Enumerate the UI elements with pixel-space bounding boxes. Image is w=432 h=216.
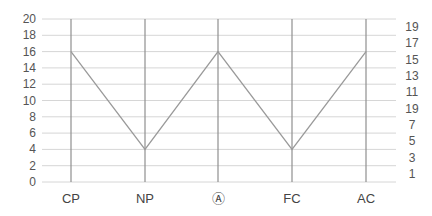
right-tick-label: 17	[405, 36, 419, 50]
left-tick-label: 12	[23, 77, 37, 91]
right-tick-label: 5	[409, 134, 416, 148]
left-tick-label: 2	[29, 159, 36, 173]
left-tick-label: 0	[29, 175, 36, 189]
category-label: CP	[62, 191, 80, 206]
right-tick-label: 7	[409, 118, 416, 132]
right-tick-label: 19	[405, 102, 419, 116]
category-label: AC	[357, 191, 375, 206]
right-tick-label: 13	[405, 69, 419, 83]
category-label: NP	[136, 191, 154, 206]
grid-lines	[42, 19, 396, 182]
right-tick-label: 15	[405, 53, 419, 67]
left-tick-label: 14	[23, 61, 37, 75]
left-tick-label: 10	[23, 94, 37, 108]
category-label: Ⓐ	[212, 191, 225, 206]
left-y-axis-ticks: 02468101214161820	[23, 12, 37, 189]
left-tick-label: 8	[29, 110, 36, 124]
left-tick-label: 4	[29, 142, 36, 156]
right-y-axis-ticks: 1357191113151719	[405, 20, 419, 181]
left-tick-label: 18	[23, 28, 37, 42]
line-chart: 02468101214161820 1357191113151719 CPNPⒶ…	[0, 0, 432, 216]
right-tick-label: 1	[409, 167, 416, 181]
right-tick-label: 19	[405, 20, 419, 34]
category-label: FC	[283, 191, 300, 206]
left-tick-label: 6	[29, 126, 36, 140]
x-axis-categories: CPNPⒶFCAC	[62, 191, 375, 206]
left-tick-label: 20	[23, 12, 37, 26]
left-tick-label: 16	[23, 45, 37, 59]
right-tick-label: 3	[409, 151, 416, 165]
right-tick-label: 11	[406, 85, 419, 99]
